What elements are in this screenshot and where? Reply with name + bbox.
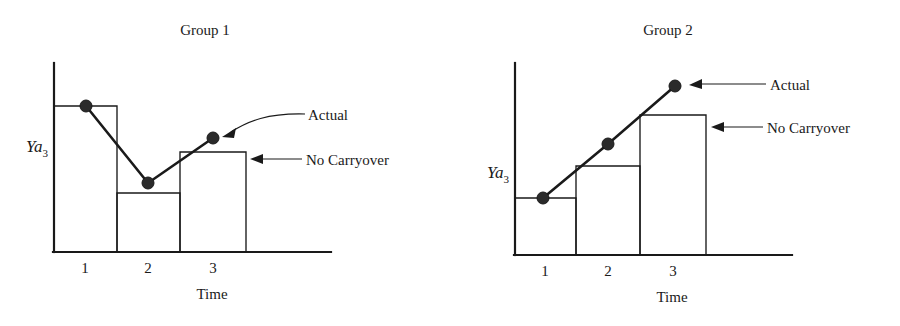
x-tick-group-2-1: 1 <box>541 263 549 279</box>
x-tick-group-2-3: 3 <box>669 263 677 279</box>
x-tick-group-1-1: 1 <box>81 260 89 276</box>
x-tick-group-1-3: 3 <box>209 260 217 276</box>
chart-panel-group-1: Group 1 Ya3 Actual No Carry <box>0 0 450 326</box>
actual-marker-group-2-time-3 <box>669 80 681 92</box>
actual-leader-group-1 <box>231 114 305 132</box>
chart-panel-group-2: Group 2 Ya3 Actual No Carryover <box>450 0 900 326</box>
x-axis-title-group-2: Time <box>656 289 687 305</box>
actual-marker-group-1-time-2 <box>142 177 154 189</box>
actual-callout-label-group-1: Actual <box>308 107 348 123</box>
chart-svg-group-1: Group 1 Ya3 Actual No Carry <box>0 0 450 326</box>
bar-group-1-time-2 <box>117 193 180 252</box>
actual-marker-group-1-time-3 <box>207 132 219 144</box>
actual-marker-group-2-time-2 <box>602 138 614 150</box>
chart-title-group-2: Group 2 <box>643 22 693 38</box>
y-axis-label-subscript-group-1: 3 <box>43 147 49 159</box>
y-axis-label-base-group-2: Ya <box>487 163 503 182</box>
actual-marker-group-2-time-1 <box>537 192 549 204</box>
carryover-figure: Group 1 Ya3 Actual No Carry <box>0 0 900 326</box>
bar-group-1-time-3 <box>180 152 246 252</box>
actual-arrowhead-group-1 <box>222 128 236 138</box>
bar-group-2-time-3 <box>640 115 706 255</box>
no-carryover-callout-label-group-1: No Carryover <box>306 152 389 168</box>
x-tick-group-2-2: 2 <box>604 263 612 279</box>
y-axis-label-group-2: Ya3 <box>487 163 509 185</box>
actual-callout-label-group-2: Actual <box>770 77 810 93</box>
y-axis-label-group-1: Ya3 <box>26 137 48 159</box>
bar-group-2-time-1 <box>515 198 576 255</box>
no-carryover-callout-label-group-2: No Carryover <box>767 120 850 136</box>
x-tick-group-1-2: 2 <box>144 260 152 276</box>
actual-arrowhead-group-2 <box>689 79 702 89</box>
actual-marker-group-1-time-1 <box>80 100 92 112</box>
x-axis-title-group-1: Time <box>196 286 227 302</box>
chart-title-group-1: Group 1 <box>180 22 230 38</box>
chart-svg-group-2: Group 2 Ya3 Actual No Carryover <box>450 0 900 326</box>
no-carryover-arrowhead-group-2 <box>711 122 724 132</box>
y-axis-label-subscript-group-2: 3 <box>504 173 510 185</box>
actual-line-group-1 <box>86 106 213 183</box>
bar-group-1-time-1 <box>54 106 117 252</box>
bar-group-2-time-2 <box>576 166 640 255</box>
y-axis-label-base-group-1: Ya <box>26 137 42 156</box>
no-carryover-arrowhead-group-1 <box>250 154 263 164</box>
